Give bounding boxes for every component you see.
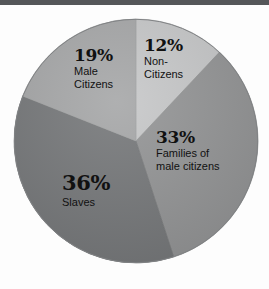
slice-percent-families: 33% <box>156 128 220 146</box>
slice-caption-slaves-line1: Slaves <box>62 196 110 209</box>
slice-percent-slaves: 36% <box>62 172 110 195</box>
slice-caption-non-citizens-line2: Citizens <box>144 68 183 81</box>
slice-label-male-citizens: 19% Male Citizens <box>74 46 113 91</box>
slice-caption-families-line1: Families of <box>156 147 220 160</box>
pie-chart-svg <box>0 0 269 289</box>
slice-caption-male-citizens-line2: Citizens <box>74 78 113 91</box>
slice-percent-male-citizens: 19% <box>74 46 113 64</box>
pie-chart-figure: 12% Non- Citizens 19% Male Citizens 33% … <box>0 0 269 289</box>
slice-caption-non-citizens-line1: Non- <box>144 55 183 68</box>
slice-label-non-citizens: 12% Non- Citizens <box>144 36 183 81</box>
slice-label-families-of-male-citizens: 33% Families of male citizens <box>156 128 220 173</box>
slice-caption-families-line2: male citizens <box>156 160 220 173</box>
slice-caption-male-citizens-line1: Male <box>74 65 113 78</box>
slice-label-slaves: 36% Slaves <box>62 172 110 209</box>
pie-chart-area <box>0 0 269 289</box>
pie-shading-overlay <box>14 19 258 263</box>
slice-percent-non-citizens: 12% <box>144 36 183 54</box>
